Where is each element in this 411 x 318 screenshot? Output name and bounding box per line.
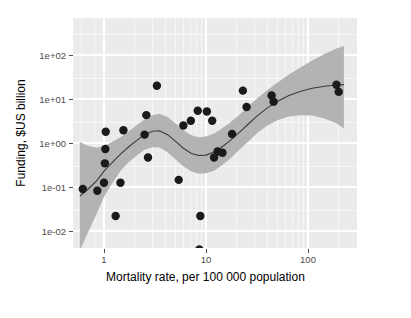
y-tick-label: 1e+02 [26,50,66,61]
scatter-point [335,88,343,96]
scatter-point [79,185,87,193]
scatter-point [102,128,110,136]
x-tick-label: 100 [300,254,316,265]
scatter-point [187,117,195,125]
scatter-point [144,153,152,161]
y-tick-label: 1e-02 [26,226,66,237]
y-tick-mark [69,143,73,144]
y-tick-mark [69,231,73,232]
x-tick-label: 1 [101,254,106,265]
x-tick-mark [206,249,207,253]
y-tick-mark [69,99,73,100]
plot-panel [73,18,357,248]
scatter-point [208,117,216,125]
scatter-points [73,18,357,248]
y-tick-label: 1e+00 [26,138,66,149]
scatter-point [153,82,161,90]
y-tick-label: 1e-01 [26,182,66,193]
x-axis-title: Mortality rate, per 100 000 population [0,270,411,284]
y-tick-mark [69,55,73,56]
x-tick-mark [104,249,105,253]
scatter-point [93,187,101,195]
scatter-point [269,97,277,105]
scatter-point [239,86,247,94]
y-axis-title: Funding, $US billion [14,79,28,186]
scatter-point [194,107,202,115]
scatter-point [242,103,250,111]
scatter-point [119,126,127,134]
y-tick-mark [69,187,73,188]
scatter-point [116,179,124,187]
scatter-point [179,121,187,129]
scatter-point [142,111,150,119]
scatter-point [140,130,148,138]
scatter-point [100,179,108,187]
scatter-point [175,176,183,184]
scatter-point [111,212,119,220]
x-tick-label: 10 [201,254,212,265]
scatter-point [218,149,226,157]
scatter-point [101,159,109,167]
chart-root: 1e-021e-011e+001e+011e+02110100 Funding,… [0,0,411,318]
scatter-point [228,130,236,138]
y-tick-label: 1e+01 [26,94,66,105]
scatter-point [101,145,109,153]
scatter-point [195,245,203,248]
scatter-point [203,107,211,115]
x-tick-mark [308,249,309,253]
scatter-point [196,212,204,220]
